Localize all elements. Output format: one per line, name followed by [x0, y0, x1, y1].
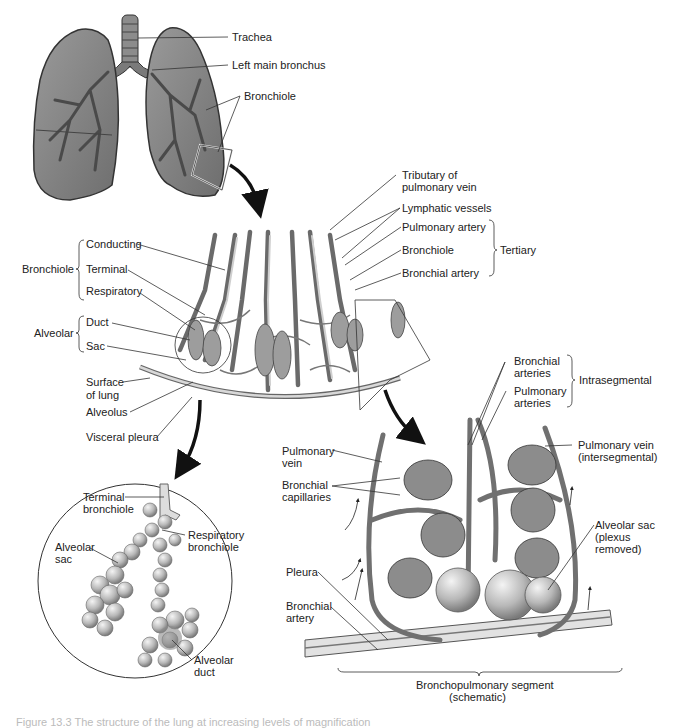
label-tributary-1: Tributary of — [402, 169, 457, 181]
label-alveolar-sac-2: sac — [55, 553, 72, 565]
segment-drawing — [305, 420, 612, 657]
label-pulmonary-vein-intersegmental-2: (intersegmental) — [578, 451, 657, 463]
label-alveolar-sac-plexus-3: removed) — [595, 543, 641, 555]
label-bronchiole: Bronchiole — [244, 90, 296, 102]
label-bronchial-artery-segment-1: Bronchial — [286, 600, 332, 612]
label-alveolus: Alveolus — [86, 406, 128, 418]
label-terminal: Terminal — [86, 263, 128, 275]
label-respiratory-bronchiole-2: bronchiole — [188, 541, 239, 553]
label-sac: Sac — [86, 340, 105, 352]
label-alveolar-sac-plexus-2: (plexus — [595, 531, 630, 543]
label-bronchial-arteries-2: arteries — [514, 367, 551, 379]
label-terminal-bronchiole-2: bronchiole — [83, 503, 134, 515]
label-pulmonary-artery: Pulmonary artery — [402, 221, 486, 233]
label-terminal-bronchiole-1: Terminal — [83, 491, 125, 503]
label-intrasegmental-group: Intrasegmental — [579, 374, 652, 386]
label-respiratory-bronchiole-1: Respiratory — [188, 529, 244, 541]
label-bronchial-artery: Bronchial artery — [402, 267, 479, 279]
label-bronchopulmonary-segment-2: (schematic) — [449, 691, 506, 703]
label-pulmonary-arteries-2: arteries — [514, 397, 551, 409]
label-tributary-2: pulmonary vein — [402, 181, 477, 193]
label-pulmonary-arteries-1: Pulmonary — [514, 385, 567, 397]
label-alveolar-duct-1: Alveolar — [194, 654, 234, 666]
label-bronchial-capillaries-2: capillaries — [282, 491, 331, 503]
label-left-main-bronchus: Left main bronchus — [232, 59, 326, 71]
label-pulmonary-vein-intersegmental-1: Pulmonary vein — [578, 439, 654, 451]
label-trachea: Trachea — [232, 31, 272, 43]
label-conducting: Conducting — [86, 238, 142, 250]
label-tertiary-group: Tertiary — [500, 244, 536, 256]
label-bronchial-artery-segment-2: artery — [286, 612, 314, 624]
label-lymphatic-vessels: Lymphatic vessels — [402, 202, 491, 214]
label-respiratory: Respiratory — [86, 285, 142, 297]
label-bronchiole-group: Bronchiole — [22, 263, 74, 275]
figure-caption: Figure 13.3 The structure of the lung at… — [16, 716, 370, 728]
label-alveolar-group: Alveolar — [34, 327, 74, 339]
lungs-drawing — [34, 15, 232, 200]
label-pulmonary-vein-1: Pulmonary — [282, 445, 335, 457]
label-alveolar-sac-1: Alveolar — [55, 541, 95, 553]
label-bronchial-arteries-1: Bronchial — [514, 355, 560, 367]
acinus-drawing — [38, 484, 232, 678]
label-surface-of-lung-2: of lung — [86, 389, 119, 401]
label-bronchial-capillaries-1: Bronchial — [282, 479, 328, 491]
label-visceral-pleura: Visceral pleura — [86, 431, 159, 443]
label-alveolar-duct-2: duct — [194, 666, 215, 678]
label-surface-of-lung-1: Surface — [86, 376, 124, 388]
label-pulmonary-vein-2: vein — [282, 457, 302, 469]
label-bronchopulmonary-segment-1: Bronchopulmonary segment — [416, 679, 554, 691]
label-pleura: Pleura — [286, 566, 318, 578]
label-alveolar-sac-plexus-1: Alveolar sac — [595, 519, 655, 531]
label-bronchiole-tertiary: Bronchiole — [402, 244, 454, 256]
label-duct: Duct — [86, 316, 109, 328]
